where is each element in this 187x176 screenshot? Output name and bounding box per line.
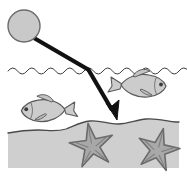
refraction-illustration: Light ray refracting at water surface wi… xyxy=(0,0,187,176)
illustration-canvas xyxy=(0,0,187,176)
fish-right-eye xyxy=(159,83,163,87)
light-source-disc xyxy=(8,10,40,42)
fish-left-eye xyxy=(24,107,28,111)
light-source xyxy=(8,10,40,42)
